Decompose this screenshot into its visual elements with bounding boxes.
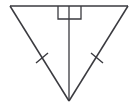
geometry-figure: Inverted triangle with vertical altitude… [0,0,137,106]
geometry-diagram-canvas [0,0,137,106]
